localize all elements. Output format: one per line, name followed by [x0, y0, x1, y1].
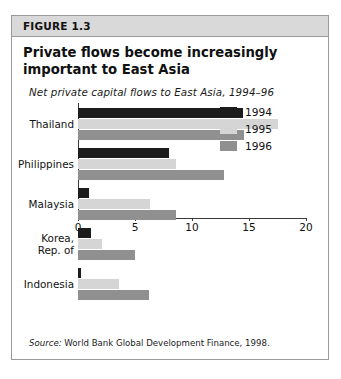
legend-swatch-1995 — [220, 124, 237, 134]
x-axis-tick-label: 20 — [299, 221, 312, 233]
legend-swatch-1994 — [220, 107, 237, 117]
source-note: Source: World Bank Global Development Fi… — [29, 338, 270, 348]
bar-malaysia-1994 — [78, 188, 89, 198]
bar-korea-rep-of-1994 — [78, 228, 91, 238]
bar-korea-rep-of-1996 — [78, 250, 135, 260]
legend-swatch-1996 — [220, 141, 237, 151]
source-label: Source: — [29, 338, 62, 348]
category-label-korea-rep-of: Korea,Rep. of — [10, 232, 74, 256]
category-label-philippines: Philippines — [10, 158, 74, 170]
bar-philippines-1995 — [78, 159, 176, 169]
category-label-malaysia: Malaysia — [10, 198, 74, 210]
chart-plot-area: 05101520ThailandPhilippinesMalaysiaKorea… — [12, 16, 328, 359]
legend-label-1994: 1994 — [245, 106, 272, 118]
category-label-thailand: Thailand — [10, 118, 74, 130]
x-axis-tick-label: 15 — [242, 221, 255, 233]
legend-label-1995: 1995 — [245, 123, 272, 135]
bar-philippines-1994 — [78, 148, 169, 158]
bar-indonesia-1996 — [78, 290, 149, 300]
bar-philippines-1996 — [78, 170, 224, 180]
bar-indonesia-1995 — [78, 279, 119, 289]
x-axis-tick-label: 5 — [132, 221, 139, 233]
source-text: World Bank Global Development Finance, 1… — [62, 338, 270, 348]
bar-malaysia-1996 — [78, 210, 176, 220]
bar-thailand-1994 — [78, 108, 243, 118]
figure-container: FIGURE 1.3 Private flows become increasi… — [11, 15, 329, 360]
bar-indonesia-1994 — [78, 268, 81, 278]
category-label-indonesia: Indonesia — [10, 278, 74, 290]
bar-korea-rep-of-1995 — [78, 239, 102, 249]
bar-malaysia-1995 — [78, 199, 150, 209]
legend-label-1996: 1996 — [245, 140, 272, 152]
x-axis-tick-label: 10 — [185, 221, 198, 233]
